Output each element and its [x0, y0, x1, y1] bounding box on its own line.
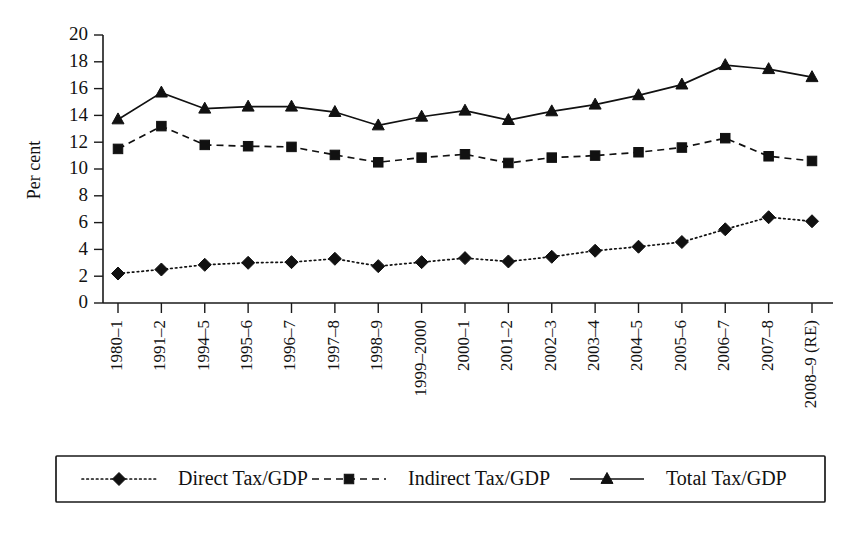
data-point-diamond — [675, 236, 688, 249]
data-point-diamond — [632, 240, 645, 253]
y-tick-label: 2 — [79, 265, 89, 286]
data-point-diamond — [285, 256, 298, 269]
y-tick-label: 12 — [69, 131, 88, 152]
data-point-diamond — [155, 263, 168, 276]
x-tick-label: 1996–7 — [280, 320, 299, 372]
x-tick-label: 1997–8 — [324, 320, 343, 371]
x-tick-label: 1995–6 — [237, 320, 256, 371]
data-point-square — [243, 141, 253, 151]
y-axis-title-group: Per cent — [24, 141, 44, 199]
data-point-square — [330, 150, 340, 160]
data-point-diamond — [589, 244, 602, 257]
y-tick-label: 4 — [79, 238, 89, 259]
legend-label: Indirect Tax/GDP — [408, 467, 550, 489]
data-point-diamond — [762, 211, 775, 224]
x-tick-label: 2007–8 — [758, 320, 777, 371]
data-point-diamond — [242, 256, 255, 269]
data-point-square — [460, 150, 470, 160]
data-point-diamond — [719, 223, 732, 236]
data-point-square — [721, 133, 731, 143]
x-tick-label: 2004–5 — [627, 320, 646, 371]
chart-canvas: Per cent 02468101214161820 1980–11991–21… — [0, 0, 866, 534]
data-point-triangle — [155, 86, 167, 97]
data-point-diamond — [806, 215, 819, 228]
data-point-diamond — [328, 252, 341, 265]
data-point-triangle — [112, 113, 124, 124]
x-tick-label: 2006–7 — [714, 320, 733, 372]
legend-label: Total Tax/GDP — [666, 467, 787, 489]
data-point-diamond — [372, 260, 385, 273]
data-point-square — [287, 142, 297, 152]
data-point-square — [634, 148, 644, 158]
data-point-diamond — [459, 252, 472, 265]
x-tick-label: 2002–3 — [541, 320, 560, 371]
y-tick-label: 18 — [69, 50, 88, 71]
x-tick-label: 2005–6 — [671, 320, 690, 371]
data-point-square — [157, 121, 167, 130]
data-point-diamond — [502, 255, 515, 268]
y-axis-ticks: 02468101214161820 — [69, 23, 103, 312]
y-tick-label: 6 — [79, 211, 89, 232]
x-tick-label: 1994–5 — [194, 320, 213, 371]
series-indirect-tax-gdp — [113, 121, 817, 167]
legend: Direct Tax/GDPIndirect Tax/GDPTotal Tax/… — [56, 456, 825, 502]
x-axis-ticks: 1980–11991–21994–51995–61996–71997–81998… — [107, 303, 820, 408]
x-tick-label: 2003–4 — [584, 320, 603, 372]
y-tick-label: 16 — [69, 77, 88, 98]
y-tick-label: 14 — [69, 104, 89, 125]
x-tick-label: 2001–2 — [497, 320, 516, 371]
data-point-diamond — [198, 258, 211, 271]
axis-spines — [103, 35, 833, 303]
data-point-square — [764, 152, 774, 162]
data-point-square — [374, 158, 384, 168]
y-tick-label: 10 — [69, 157, 88, 178]
data-point-triangle — [719, 59, 731, 70]
y-tick-label: 8 — [79, 184, 89, 205]
x-tick-label: 1998–9 — [367, 320, 386, 371]
data-series-layer — [112, 59, 819, 280]
series-direct-tax-gdp — [112, 211, 819, 280]
data-point-square — [113, 144, 123, 154]
data-point-diamond — [415, 256, 428, 269]
data-point-diamond — [112, 267, 125, 280]
data-point-square — [417, 153, 427, 163]
legend-marker-square — [344, 474, 354, 484]
data-point-square — [547, 153, 557, 163]
x-tick-label: 1980–1 — [107, 320, 126, 371]
x-tick-label: 1999–2000 — [411, 320, 430, 397]
data-point-square — [504, 158, 514, 168]
x-tick-label: 2000–1 — [454, 320, 473, 371]
series-total-tax-gdp — [112, 59, 818, 130]
data-point-triangle — [286, 100, 298, 111]
data-point-square — [807, 156, 817, 166]
data-point-triangle — [242, 100, 254, 111]
y-axis-title: Per cent — [24, 141, 44, 199]
y-tick-label: 20 — [69, 23, 88, 44]
data-point-diamond — [545, 250, 558, 263]
tax-gdp-line-chart: Per cent 02468101214161820 1980–11991–21… — [0, 0, 866, 534]
y-tick-label: 0 — [79, 291, 89, 312]
x-tick-label: 2008–9 (RE) — [801, 320, 820, 408]
data-point-square — [677, 143, 687, 153]
x-tick-label: 1991–2 — [150, 320, 169, 371]
legend-items: Direct Tax/GDPIndirect Tax/GDPTotal Tax/… — [82, 467, 787, 489]
data-point-square — [590, 151, 600, 161]
data-point-triangle — [459, 104, 471, 115]
data-point-square — [200, 140, 210, 150]
series-line — [118, 65, 812, 125]
legend-label: Direct Tax/GDP — [178, 467, 308, 489]
